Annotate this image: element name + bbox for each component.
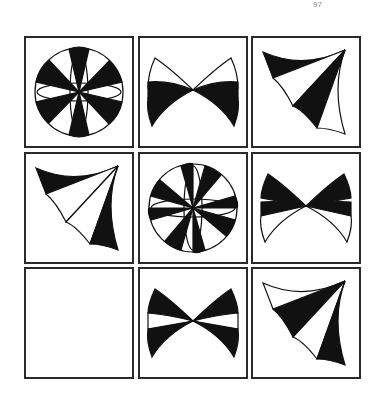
cell-r3c2 — [138, 267, 248, 379]
bowtie-figure — [140, 269, 246, 377]
bowtie-figure — [140, 38, 246, 146]
cell-r2c3 — [251, 152, 361, 264]
fan-figure — [26, 154, 132, 262]
cell-r1c3 — [251, 36, 361, 148]
cell-r1c1 — [24, 36, 134, 148]
cell-r1c2 — [138, 36, 248, 148]
bowtie-figure — [253, 154, 359, 262]
top-text-fragment: 97 — [313, 0, 322, 9]
fan-figure — [253, 38, 359, 146]
fan-figure — [253, 269, 359, 377]
cell-r3c1-empty — [24, 267, 134, 379]
cell-r3c3 — [251, 267, 361, 379]
cell-r2c2 — [138, 152, 248, 264]
cell-r2c1 — [24, 152, 134, 264]
rosette-figure — [26, 38, 132, 146]
rosette-figure — [140, 154, 246, 262]
